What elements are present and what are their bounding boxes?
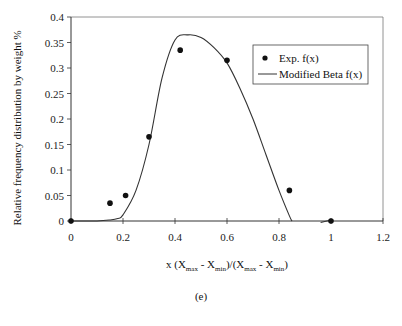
- data-point: [287, 188, 293, 194]
- data-point: [68, 218, 74, 224]
- y-tick-label: 0.25: [45, 88, 65, 100]
- figure-caption: (e): [0, 290, 402, 302]
- legend-marker-icon: [262, 55, 267, 60]
- x-tick-label: 1.2: [376, 231, 390, 243]
- y-tick-label: 0.35: [45, 37, 65, 49]
- x-tick-label: 0: [68, 231, 74, 243]
- y-tick-label: 0.15: [45, 139, 65, 151]
- x-tick-label: 0.6: [220, 231, 234, 243]
- data-point: [123, 193, 129, 199]
- data-point: [224, 58, 230, 64]
- x-tick-label: 0.2: [116, 231, 130, 243]
- y-axis-title: Relative frequency distribution by weigh…: [11, 30, 23, 225]
- legend-item-exp: Exp. f(x): [279, 52, 319, 65]
- data-point: [177, 47, 183, 53]
- chart: 00.050.10.150.20.250.30.350.4 00.20.40.6…: [0, 0, 402, 326]
- y-tick-label: 0.1: [50, 164, 64, 176]
- x-axis: 00.20.40.60.811.2: [68, 218, 390, 243]
- data-point: [107, 200, 113, 206]
- legend-item-beta: Modified Beta f(x): [279, 68, 362, 81]
- y-axis: 00.050.10.150.20.250.30.350.4: [45, 11, 71, 227]
- y-tick-label: 0.3: [50, 62, 64, 74]
- y-tick-label: 0.4: [50, 11, 64, 23]
- y-tick-label: 0.05: [45, 190, 65, 202]
- x-axis-title: x (Xmax - Xmin)/(Xmax - Xmin): [70, 258, 384, 273]
- x-tick-label: 1: [328, 231, 334, 243]
- data-point: [328, 218, 334, 224]
- y-tick-label: 0.2: [50, 113, 64, 125]
- x-tick-label: 0.4: [168, 231, 182, 243]
- y-tick-label: 0: [59, 215, 65, 227]
- data-point: [146, 134, 152, 140]
- x-tick-label: 0.8: [272, 231, 286, 243]
- legend: Exp. f(x) Modified Beta f(x): [253, 45, 368, 84]
